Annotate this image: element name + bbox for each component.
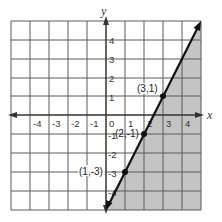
y-tick-label: 2 bbox=[109, 73, 114, 84]
y-tick-label: 1 bbox=[109, 92, 114, 103]
y-axis-label: y bbox=[100, 4, 107, 18]
y-tick-label: 3 bbox=[109, 54, 114, 65]
y-tick-label: 4 bbox=[109, 35, 114, 46]
x-tick-label: 3 bbox=[166, 118, 171, 129]
coordinate-graph: x y -4 -3 -2 -1 0 1 2 3 4 4 3 2 1 -1 -2 … bbox=[0, 0, 222, 222]
x-tick-label: -1 bbox=[90, 118, 98, 129]
x-tick-label: 4 bbox=[185, 118, 190, 129]
x-tick-label: -2 bbox=[71, 118, 79, 129]
x-tick-label: -4 bbox=[33, 118, 41, 129]
point-label: (3,1) bbox=[137, 83, 158, 94]
y-tick-label: -3 bbox=[108, 168, 116, 179]
point-label: (1,-3) bbox=[79, 166, 103, 177]
x-tick-labels: -4 -3 -2 -1 0 1 2 3 4 bbox=[33, 118, 190, 129]
point-label: (2,-1) bbox=[115, 128, 139, 139]
x-axis-label: x bbox=[206, 108, 213, 122]
point-2-neg1 bbox=[141, 131, 147, 137]
x-axis-left-arrow-icon bbox=[8, 112, 17, 118]
line-top-arrow-icon bbox=[194, 21, 202, 31]
x-tick-label: -3 bbox=[52, 118, 60, 129]
point-1-neg3 bbox=[122, 169, 128, 175]
x-tick-label: 0 bbox=[109, 118, 114, 129]
y-tick-label: -2 bbox=[108, 149, 116, 160]
